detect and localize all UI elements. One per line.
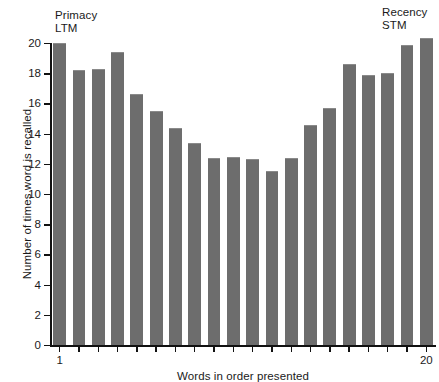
- y-tick-label: 6: [35, 248, 41, 260]
- y-axis-line: [50, 43, 52, 345]
- serial-position-bar-chart: Primacy LTM Recency STM Number of times …: [0, 0, 439, 382]
- y-tick-label: 14: [28, 128, 41, 140]
- x-tick-mark: [136, 345, 137, 352]
- y-tick-mark: [44, 194, 50, 195]
- y-tick-label: 2: [35, 309, 41, 321]
- x-tick-mark: [98, 345, 99, 352]
- y-tick-label: 20: [28, 37, 41, 49]
- annotation-recency-stm: Recency STM: [382, 6, 427, 32]
- x-tick-mark: [271, 345, 272, 352]
- y-tick-mark: [44, 224, 50, 225]
- bar: [266, 171, 279, 345]
- bar: [208, 158, 221, 345]
- plot-area: 02468101214161820 120 Words in order pre…: [50, 43, 436, 345]
- y-tick-mark: [44, 285, 50, 286]
- x-axis-line: [50, 345, 436, 347]
- bar: [169, 128, 182, 345]
- x-tick-mark: [252, 345, 253, 352]
- bar: [73, 70, 86, 345]
- bar: [285, 158, 298, 345]
- y-tick-mark: [44, 43, 50, 44]
- bar: [420, 38, 433, 345]
- y-tick-label: 10: [28, 188, 41, 200]
- x-tick-mark: [117, 345, 118, 352]
- y-tick-label: 4: [35, 279, 41, 291]
- x-tick-mark: [233, 345, 234, 352]
- y-tick-mark: [44, 164, 50, 165]
- x-tick-mark: [426, 345, 427, 352]
- annotation-primacy-ltm: Primacy LTM: [55, 9, 97, 35]
- bar: [92, 69, 105, 345]
- bar: [246, 159, 259, 345]
- x-tick-mark: [213, 345, 214, 352]
- bar: [401, 45, 414, 345]
- y-tick-mark: [44, 103, 50, 104]
- y-tick-label: 12: [28, 158, 41, 170]
- x-tick-mark: [291, 345, 292, 352]
- y-tick-mark: [44, 345, 50, 346]
- y-tick-label: 18: [28, 67, 41, 79]
- bar: [227, 157, 240, 345]
- bar: [188, 143, 201, 345]
- x-tick-mark: [310, 345, 311, 352]
- bar: [150, 111, 163, 345]
- x-tick-mark: [78, 345, 79, 352]
- y-tick-mark: [44, 254, 50, 255]
- x-tick-mark: [329, 345, 330, 352]
- x-axis-title: Words in order presented: [50, 370, 436, 382]
- x-tick-mark: [348, 345, 349, 352]
- x-tick-mark: [194, 345, 195, 352]
- bar: [130, 94, 143, 345]
- x-tick-label: 20: [420, 354, 433, 366]
- x-tick-mark: [155, 345, 156, 352]
- x-tick-label: 1: [56, 354, 62, 366]
- bar: [323, 108, 336, 345]
- y-tick-label: 8: [35, 218, 41, 230]
- bar: [381, 73, 394, 345]
- bar: [343, 64, 356, 345]
- x-tick-mark: [406, 345, 407, 352]
- x-tick-mark: [387, 345, 388, 352]
- y-tick-mark: [44, 315, 50, 316]
- bar: [304, 125, 317, 345]
- y-tick-mark: [44, 73, 50, 74]
- bar: [53, 43, 66, 345]
- x-tick-mark: [59, 345, 60, 352]
- bar: [111, 52, 124, 345]
- bar: [362, 75, 375, 345]
- y-tick-label: 0: [35, 339, 41, 351]
- x-tick-mark: [368, 345, 369, 352]
- y-tick-label: 16: [28, 97, 41, 109]
- y-tick-mark: [44, 134, 50, 135]
- x-tick-mark: [175, 345, 176, 352]
